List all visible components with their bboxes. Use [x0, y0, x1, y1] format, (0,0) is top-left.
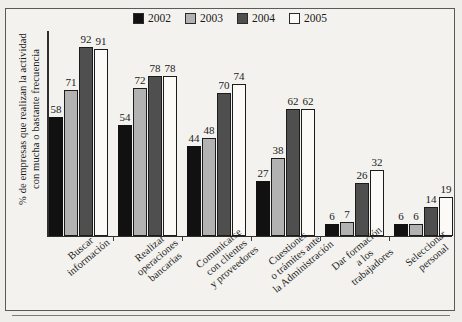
- bar-rect: [187, 146, 201, 236]
- bar-rect: [79, 47, 93, 236]
- legend-item-2002[interactable]: 2002: [133, 13, 171, 24]
- bar-rect: [118, 125, 132, 236]
- bar-rect: [409, 224, 423, 236]
- bar-value-label: 27: [258, 168, 269, 179]
- bar-rect: [148, 76, 162, 236]
- bar-group: 27386262: [256, 31, 315, 236]
- bar-value-label: 6: [398, 211, 404, 222]
- bar-rect: [325, 224, 339, 236]
- bar-rect: [301, 109, 315, 236]
- bar-value-label: 78: [165, 63, 176, 74]
- x-category-1: Buscarinformación: [47, 240, 106, 320]
- bar-rect: [394, 224, 408, 236]
- x-category-2: Realizaroperacionesbancarias: [116, 240, 175, 320]
- bar-2002-6[interactable]: 6: [394, 31, 408, 236]
- bar-rect: [232, 84, 246, 236]
- bar-2005-2[interactable]: 78: [163, 31, 177, 236]
- bar-2003-3[interactable]: 48: [202, 31, 216, 236]
- chart-frame: 2002200320042005 % de empresas que reali…: [5, 8, 455, 311]
- bar-2005-6[interactable]: 19: [439, 31, 453, 236]
- bar-value-label: 92: [81, 34, 92, 45]
- legend-swatch-2002: [133, 13, 144, 24]
- legend-label-2003: 2003: [200, 13, 223, 24]
- bar-rect: [163, 76, 177, 236]
- bar-2004-1[interactable]: 92: [79, 31, 93, 236]
- bar-2004-5[interactable]: 26: [355, 31, 369, 236]
- bar-2003-2[interactable]: 72: [133, 31, 147, 236]
- bar-2002-3[interactable]: 44: [187, 31, 201, 236]
- bar-value-label: 19: [441, 184, 452, 195]
- bar-value-label: 14: [426, 194, 437, 205]
- bar-2002-5[interactable]: 6: [325, 31, 339, 236]
- bar-rect: [202, 138, 216, 236]
- bar-value-label: 58: [51, 104, 62, 115]
- bar-value-label: 74: [234, 71, 245, 82]
- bar-group: 672632: [325, 31, 384, 236]
- chart-legend: 2002200320042005: [6, 13, 454, 24]
- bar-rect: [217, 93, 231, 237]
- legend-label-2004: 2004: [252, 13, 275, 24]
- legend-swatch-2003: [185, 13, 196, 24]
- bar-rect: [64, 90, 78, 236]
- bar-2004-2[interactable]: 78: [148, 31, 162, 236]
- y-axis-title: % de empresas que realizan la actividadc…: [16, 19, 42, 219]
- bar-value-label: 71: [66, 77, 77, 88]
- bar-value-label: 32: [372, 157, 383, 168]
- bar-2002-1[interactable]: 58: [49, 31, 63, 236]
- bar-rect: [286, 109, 300, 236]
- bar-2003-4[interactable]: 38: [271, 31, 285, 236]
- bar-value-label: 91: [96, 36, 107, 47]
- bar-group: 58719291: [49, 31, 108, 236]
- x-category-6: Seleccionarpersonal: [393, 240, 452, 320]
- bar-rect: [271, 158, 285, 236]
- bar-rect: [256, 181, 270, 236]
- bar-value-label: 62: [303, 96, 314, 107]
- legend-label-2002: 2002: [148, 13, 171, 24]
- x-category-5: Dar formacióna lostrabajadores: [324, 240, 383, 320]
- bar-value-label: 38: [273, 145, 284, 156]
- legend-item-2005[interactable]: 2005: [289, 13, 327, 24]
- bar-group: 661419: [394, 31, 453, 236]
- bar-2005-1[interactable]: 91: [94, 31, 108, 236]
- bar-2005-3[interactable]: 74: [232, 31, 246, 236]
- bar-2005-4[interactable]: 62: [301, 31, 315, 236]
- legend-swatch-2005: [289, 13, 300, 24]
- bar-rect: [94, 49, 108, 236]
- bar-2003-6[interactable]: 6: [409, 31, 423, 236]
- legend-swatch-2004: [237, 13, 248, 24]
- bar-rect: [133, 88, 147, 236]
- bar-group: 54727878: [118, 31, 177, 236]
- bar-2004-6[interactable]: 14: [424, 31, 438, 236]
- bar-value-label: 72: [135, 75, 146, 86]
- bar-2003-5[interactable]: 7: [340, 31, 354, 236]
- bar-group: 44487074: [187, 31, 246, 236]
- bar-value-label: 6: [413, 211, 419, 222]
- bar-value-label: 6: [329, 211, 335, 222]
- bar-2004-3[interactable]: 70: [217, 31, 231, 236]
- bar-2004-4[interactable]: 62: [286, 31, 300, 236]
- bar-value-label: 62: [288, 96, 299, 107]
- bar-rect: [355, 183, 369, 236]
- bar-value-label: 70: [219, 80, 230, 91]
- legend-label-2005: 2005: [304, 13, 327, 24]
- bar-2002-4[interactable]: 27: [256, 31, 270, 236]
- x-category-3: Comunicarsecon clientesy proveedores: [185, 240, 244, 320]
- legend-item-2003[interactable]: 2003: [185, 13, 223, 24]
- bar-value-label: 44: [189, 133, 200, 144]
- bottom-rule: [12, 315, 450, 316]
- bar-value-label: 7: [344, 209, 350, 220]
- bar-value-label: 54: [120, 112, 131, 123]
- x-category-4: Cuestioneso trámites antela Administraci…: [255, 240, 314, 320]
- legend-item-2004[interactable]: 2004: [237, 13, 275, 24]
- bar-rect: [340, 222, 354, 236]
- bar-value-label: 48: [204, 125, 215, 136]
- bar-rect: [49, 117, 63, 236]
- x-axis-category-labels: BuscarinformaciónRealizaroperacionesbanc…: [47, 240, 452, 320]
- plot-area: 5871929154727878444870742738626267263266…: [47, 31, 447, 237]
- y-axis-title-line: % de empresas que realizan la actividad: [16, 19, 29, 219]
- bar-value-label: 78: [150, 63, 161, 74]
- bar-2005-5[interactable]: 32: [370, 31, 384, 236]
- bar-2003-1[interactable]: 71: [64, 31, 78, 236]
- y-axis-title-line: con mucha o bastante frecuencia: [29, 19, 42, 219]
- bar-2002-2[interactable]: 54: [118, 31, 132, 236]
